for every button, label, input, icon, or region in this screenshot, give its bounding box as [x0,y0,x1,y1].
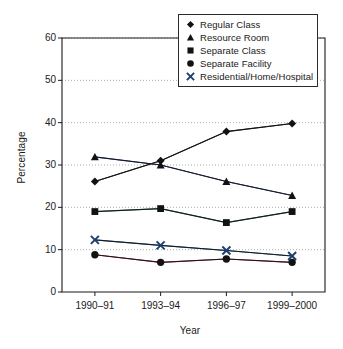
square-marker-icon [223,219,230,226]
y-tick-label: 60 [30,32,56,43]
circle-marker-icon [157,259,164,266]
square-marker-icon [91,208,98,215]
legend-item-label: Regular Class [197,19,260,30]
chart-legend: Regular ClassResource RoomSeparate Class… [178,14,318,87]
triangle-marker-icon [91,153,99,160]
legend-item-label: Separate Facility [197,58,272,69]
x-axis-title: Year [60,325,320,336]
circle-marker-icon [183,58,197,69]
square-marker-icon [183,45,197,56]
y-tick-label: 30 [30,159,56,170]
series-diamond [91,120,296,186]
legend-item-label: Residential/Home/Hospital [197,71,313,82]
x-tick-label: 1990–91 [75,300,114,311]
circle-marker-icon [223,255,230,262]
chart-figure: Percentage Year 0102030405060 1990–91199… [0,0,343,349]
diamond-marker-icon [222,128,230,136]
diamond-marker-icon [183,19,197,30]
y-tick-label: 0 [30,286,56,297]
diamond-marker-icon [288,120,296,128]
diamond-marker-icon [186,21,193,28]
x-marker-icon [183,71,197,82]
legend-item-label: Separate Class [197,45,266,56]
square-marker-icon [187,47,193,53]
legend-item: Separate Class [183,44,313,57]
y-tick-label: 10 [30,244,56,255]
x-tick-label: 1999–2000 [267,300,317,311]
x-tick-label: 1993–94 [141,300,180,311]
legend-item: Resource Room [183,31,313,44]
diamond-marker-icon [91,178,99,186]
legend-item-label: Resource Room [197,32,269,43]
circle-marker-icon [91,251,98,258]
x-marker-icon [186,73,193,80]
circle-marker-icon [187,60,194,67]
square-marker-icon [157,205,164,212]
legend-item: Regular Class [183,18,313,31]
y-tick-label: 40 [30,117,56,128]
square-marker-icon [289,208,296,215]
data-series-group [91,120,296,267]
legend-item: Separate Facility [183,57,313,70]
series-x [91,236,296,260]
y-tick-label: 20 [30,201,56,212]
y-tick-label: 50 [30,74,56,85]
series-line-overlay [95,157,292,196]
series-square [91,205,295,226]
y-axis-title: Percentage [16,118,27,198]
series-triangle [91,153,296,199]
x-tick-label: 1996–97 [207,300,246,311]
legend-item: Residential/Home/Hospital [183,70,313,83]
triangle-marker-icon [186,34,193,41]
triangle-marker-icon [183,32,197,43]
series-line-overlay [95,240,292,256]
series-line-overlay [95,209,292,223]
